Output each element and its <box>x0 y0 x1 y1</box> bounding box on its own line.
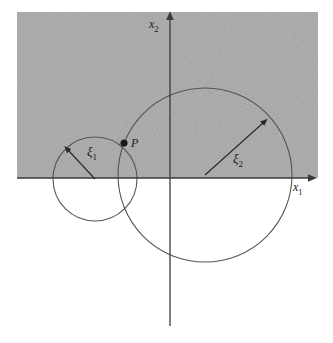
x2-axis-label-sub: 2 <box>154 24 158 34</box>
xi2-label-sub: 2 <box>239 159 244 169</box>
xi1-label-sub: 1 <box>93 152 98 162</box>
x1-axis-label-sub: 1 <box>298 187 302 197</box>
figure-container: x2 x1 ξ1 ξ2 P <box>0 0 333 343</box>
point-P-dot <box>120 139 127 146</box>
x1-axis-label: x1 <box>292 180 303 197</box>
geometry-figure: x2 x1 ξ1 ξ2 P <box>0 0 333 343</box>
point-P-label: P <box>130 136 139 150</box>
